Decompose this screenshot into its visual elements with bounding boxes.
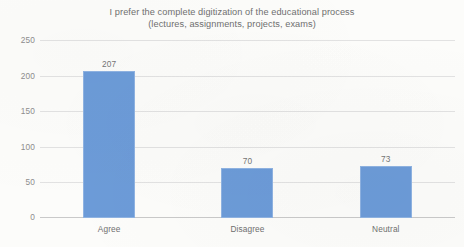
bar-value-neutral: 73 [381,154,390,164]
y-axis-tick-150: 150 [1,106,35,116]
y-axis-tick-250: 250 [1,35,35,45]
plot-area: 250 200 150 100 50 0 207 70 [40,40,455,218]
y-axis-tick-100: 100 [1,142,35,152]
bar-slot-agree: 207 [40,40,178,218]
chart-title: I prefer the complete digitization of th… [42,6,422,31]
x-axis-label-disagree: Disagree [178,224,316,234]
x-axis-label-neutral: Neutral [317,224,455,234]
bar-slot-disagree: 70 [178,40,316,218]
bar-slot-neutral: 73 [317,40,455,218]
bar-chart: I prefer the complete digitization of th… [0,0,464,247]
y-axis-tick-200: 200 [1,71,35,81]
bar-value-disagree: 70 [243,156,252,166]
y-axis-tick-50: 50 [1,177,35,187]
bar-value-agree: 207 [102,59,116,69]
chart-title-line-2: (lectures, assignments, projects, exams) [42,18,422,30]
x-axis-label-agree: Agree [40,224,178,234]
bar-neutral[interactable]: 73 [360,166,412,218]
bar-disagree[interactable]: 70 [221,168,273,218]
bar-agree[interactable]: 207 [83,71,135,218]
chart-title-line-1: I prefer the complete digitization of th… [42,6,422,18]
x-axis-labels: Agree Disagree Neutral [40,224,455,234]
y-axis-tick-0: 0 [1,212,35,222]
bar-series: 207 70 73 [40,40,455,218]
